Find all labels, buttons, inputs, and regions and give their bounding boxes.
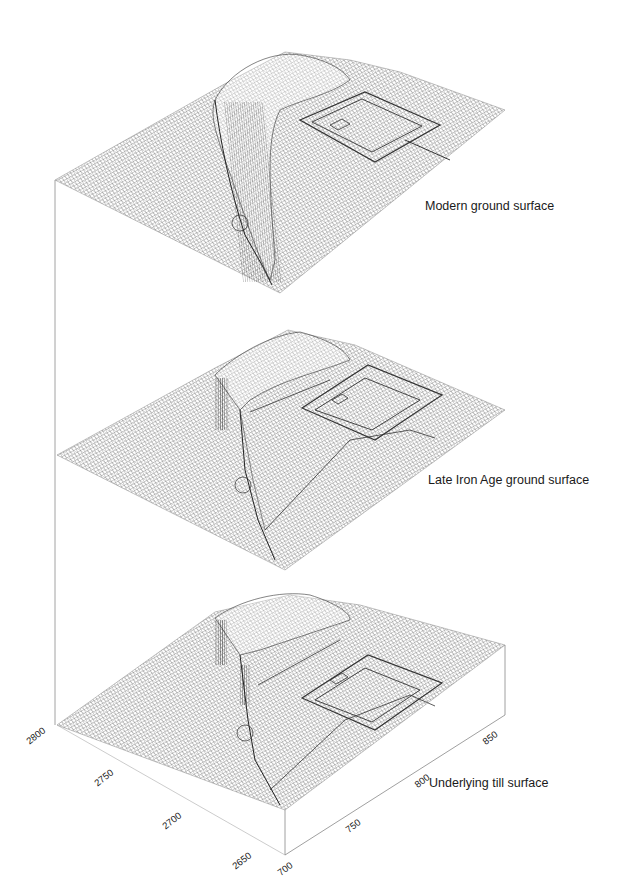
surface-till — [57, 594, 505, 855]
label-modern-ground-surface: Modern ground surface — [425, 199, 554, 213]
label-underlying-till-surface: Underlying till surface — [429, 776, 549, 790]
surface-modern — [55, 52, 505, 293]
terrain-figure — [0, 0, 627, 882]
label-late-iron-age-ground-surface: Late Iron Age ground surface — [428, 473, 589, 487]
surface-late-iron-age — [57, 330, 505, 570]
